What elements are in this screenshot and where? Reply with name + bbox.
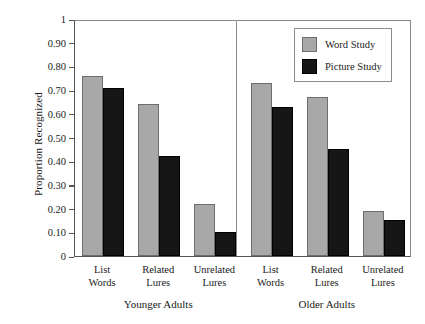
x-axis-category-label-line: Words [257,277,284,288]
legend-swatch-picture-study-icon [302,59,317,74]
y-axis-tick-mark [69,43,74,44]
y-axis-tick-label: 0.40 [48,154,66,170]
y-axis-tick-mark [69,162,74,163]
y-axis-tick-label: 0.30 [48,178,66,194]
bar [138,104,159,256]
y-axis-tick-mark [69,91,74,92]
bar [363,211,384,256]
legend-label-picture-study: Picture Study [325,61,382,72]
bar [82,76,103,256]
y-axis-tick-label: 0.70 [48,83,66,99]
bar-chart-figure: Proportion Recognized 10.900.800.700.600… [0,0,425,324]
bar [103,88,124,256]
x-axis-category-label-line: Unrelated [362,264,403,275]
bar [215,232,236,256]
y-axis-tick-label: 0.60 [48,107,66,123]
y-axis-tick-label: 0 [61,249,66,265]
bar [159,156,180,256]
y-axis-title: Proportion Recognized [32,44,44,244]
panel-label: Older Adults [243,298,412,310]
y-axis-tick-mark [69,257,74,258]
x-axis-category-label-line: List [262,264,278,275]
bar [251,83,272,256]
y-axis-tick-mark [69,233,74,234]
y-axis-tick-label: 0.50 [48,131,66,147]
y-axis-tick-label: 0.80 [48,59,66,75]
y-axis-tick-mark [69,138,74,139]
y-axis-tick-mark [69,20,74,21]
y-axis-tick-mark [69,185,74,186]
x-axis-category-label-line: Lures [371,277,395,288]
y-axis-tick-mark [69,67,74,68]
x-axis-category-label-line: Words [89,277,116,288]
legend-item-word-study: Word Study [302,35,382,53]
x-axis-category-label-line: Lures [315,277,339,288]
x-axis-category-label-line: List [94,264,110,275]
bar [272,107,293,256]
y-axis-tick-label: 1 [61,12,66,28]
bar [307,97,328,256]
y-axis-tick-label: 0.20 [48,202,66,218]
panel-label: Younger Adults [74,298,243,310]
bar [328,149,349,256]
y-axis-tick-label: 0.10 [48,225,66,241]
x-axis-category-label: UnrelatedLures [338,264,425,289]
x-axis-category-label-line: Lures [202,277,226,288]
bar [194,204,215,256]
legend-item-picture-study: Picture Study [302,57,382,75]
y-axis-tick-label: 0.90 [48,36,66,52]
panel-divider [236,21,237,256]
legend-label-word-study: Word Study [325,39,375,50]
x-axis-category-label-line: Lures [146,277,170,288]
bar [384,220,405,256]
y-axis-tick-mark [69,209,74,210]
legend: Word Study Picture Study [294,28,392,82]
y-axis-tick-mark [69,114,74,115]
legend-swatch-word-study-icon [302,37,317,52]
